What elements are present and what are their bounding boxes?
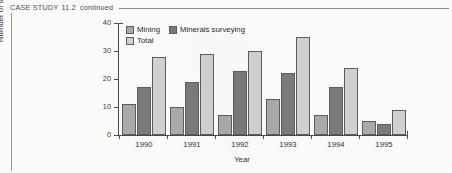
y-tick-20: 20 (114, 79, 118, 80)
x-axis-label: Year (0, 155, 452, 164)
bar-1995-minerals-surveying (377, 124, 391, 135)
bar-1993-total (296, 37, 310, 135)
x-tick-1995 (359, 135, 360, 139)
legend-item-mining: Mining (126, 25, 160, 34)
bar-1992-mining (218, 115, 232, 135)
bar-1991-mining (170, 107, 184, 135)
legend-item-total: Total (126, 36, 153, 45)
y-tick-10: 10 (114, 107, 118, 108)
x-tick-label-1993: 1993 (266, 140, 310, 149)
bar-1995-mining (362, 121, 376, 135)
x-tick-1990 (119, 135, 120, 139)
bar-1991-total (200, 54, 214, 135)
legend-item-minerals-surveying: Minerals surveying (169, 25, 245, 34)
bar-1994-minerals-surveying (329, 87, 343, 135)
legend-row-2: Total (126, 35, 254, 46)
x-tick-1993 (263, 135, 264, 139)
y-tick-label-40: 40 (103, 18, 111, 27)
y-tick-label-10: 10 (103, 102, 111, 111)
chart-legend: Mining Minerals surveying Total (126, 24, 254, 46)
bar-1993-minerals-surveying (281, 73, 295, 135)
bar-chart: 010203040 Number of students 19901991199… (0, 0, 452, 173)
y-tick-40: 40 (114, 23, 118, 24)
legend-swatch-mining (126, 26, 134, 34)
y-tick-label-20: 20 (103, 74, 111, 83)
bar-1990-total (152, 57, 166, 135)
x-axis-label-text: Year (234, 155, 250, 164)
bar-1992-minerals-surveying (233, 71, 247, 135)
bar-1990-minerals-surveying (137, 87, 151, 135)
x-tick-1992 (215, 135, 216, 139)
x-tick-label-1992: 1992 (218, 140, 262, 149)
legend-row-1: Mining Minerals surveying (126, 24, 254, 35)
x-tick-label-1991: 1991 (170, 140, 214, 149)
legend-label-mining: Mining (137, 25, 160, 34)
legend-label-total: Total (137, 36, 153, 45)
y-tick-0: 0 (114, 135, 118, 136)
bar-1993-mining (266, 99, 280, 135)
bar-group-1994 (314, 23, 358, 135)
bar-1990-mining (122, 104, 136, 135)
x-tick-label-1990: 1990 (122, 140, 166, 149)
y-axis-label: Number of students (0, 0, 5, 42)
x-tick-1994 (311, 135, 312, 139)
figure-page: CASE STUDY11.2continued 010203040 Number… (0, 0, 452, 173)
bar-1995-total (392, 110, 406, 135)
legend-label-minerals-surveying: Minerals surveying (180, 25, 245, 34)
legend-swatch-minerals-surveying (169, 26, 177, 34)
y-tick-label-30: 30 (103, 46, 111, 55)
bar-group-1995 (362, 23, 406, 135)
legend-swatch-total (126, 37, 134, 45)
x-tick-label-1995: 1995 (362, 140, 406, 149)
bar-group-1993 (266, 23, 310, 135)
y-tick-30: 30 (114, 51, 118, 52)
bar-1994-mining (314, 115, 328, 135)
bar-1994-total (344, 68, 358, 135)
x-tick-end (407, 135, 408, 139)
x-tick-1991 (167, 135, 168, 139)
bar-1992-total (248, 51, 262, 135)
bar-1991-minerals-surveying (185, 82, 199, 135)
y-tick-label-0: 0 (107, 130, 111, 139)
x-tick-label-1994: 1994 (314, 140, 358, 149)
